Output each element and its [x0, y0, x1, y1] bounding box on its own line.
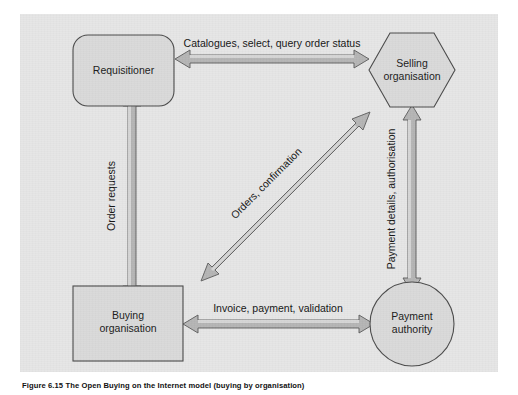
- connector-order-requests: Order requests: [105, 91, 141, 301]
- connector-catalogues: Catalogues, select, query order status: [175, 37, 369, 68]
- node-buying-organisation[interactable]: Buying organisation: [73, 286, 183, 361]
- connector-orders-confirmation: Orders, confirmation: [201, 112, 370, 281]
- node-selling-organisation[interactable]: Selling organisation: [369, 33, 455, 107]
- connector-payment-details-label: Payment details, authorisation: [385, 129, 397, 270]
- connector-payment-details: Payment details, authorisation: [385, 105, 421, 293]
- connector-order-requests-label: Order requests: [105, 161, 117, 231]
- payment-authority-label-line2: authority: [392, 323, 433, 335]
- connector-orders-confirmation-label: Orders, confirmation: [228, 145, 304, 221]
- obi-model-diagram: Catalogues, select, query order status O…: [20, 14, 498, 372]
- figure-caption: Figure 6.15 The Open Buying on the Inter…: [22, 381, 496, 391]
- selling-organisation-label-line1: Selling: [396, 57, 428, 69]
- node-requisitioner[interactable]: Requisitioner: [73, 35, 174, 106]
- connector-invoice-label: Invoice, payment, validation: [213, 302, 343, 314]
- connector-catalogues-label: Catalogues, select, query order status: [184, 37, 361, 49]
- figure-panel: Catalogues, select, query order status O…: [20, 14, 498, 372]
- buying-organisation-label-line2: organisation: [99, 322, 156, 334]
- node-payment-authority[interactable]: Payment authority: [370, 282, 454, 366]
- connector-invoice: Invoice, payment, validation: [183, 302, 374, 333]
- selling-organisation-label-line2: organisation: [383, 70, 440, 82]
- payment-authority-label-line1: Payment: [391, 310, 433, 322]
- requisitioner-label: Requisitioner: [93, 64, 155, 76]
- buying-organisation-label-line1: Buying: [112, 309, 144, 321]
